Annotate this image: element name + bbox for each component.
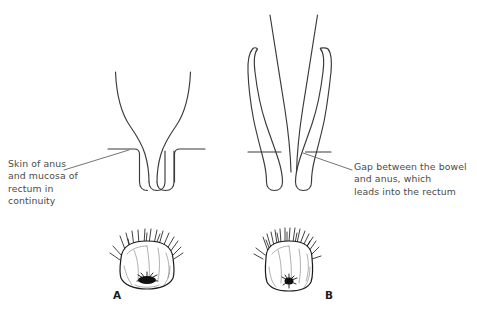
figure-letter-a: A xyxy=(113,289,121,301)
leader-line-right xyxy=(303,153,352,170)
figure-b-external-view xyxy=(254,228,321,291)
figure-a-external-view xyxy=(110,229,183,289)
figure-letter-b: B xyxy=(325,289,333,301)
figure-b-cross-section xyxy=(248,15,332,191)
gap-between-bowel-label: Gap between the bowel and anus, which le… xyxy=(354,161,467,198)
diagram-canvas: Skin of anus and mucosa of rectum in con… xyxy=(0,0,477,311)
diagram-artwork xyxy=(0,0,477,311)
figure-a-cross-section xyxy=(108,72,205,191)
skin-of-anus-label: Skin of anus and mucosa of rectum in con… xyxy=(8,158,78,208)
